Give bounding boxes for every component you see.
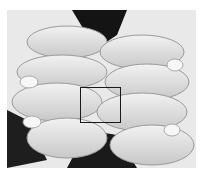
- region-of-interest-box: [80, 87, 121, 123]
